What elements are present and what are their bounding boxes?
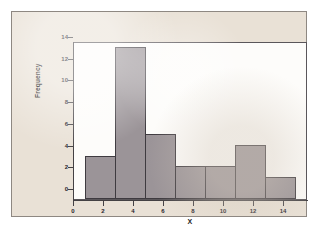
y-axis-tick [68, 124, 73, 125]
x-axis-tick-label: 14 [273, 208, 293, 214]
y-axis-tick [68, 59, 73, 60]
histogram-bar [175, 166, 206, 199]
x-axis-tick-label: 8 [183, 208, 203, 214]
y-axis-tick [68, 167, 73, 168]
x-axis-title: X [73, 218, 307, 225]
x-axis-tick-label: 6 [153, 208, 173, 214]
x-axis-tick [193, 201, 194, 206]
y-axis-title: Frequency [34, 63, 41, 98]
histogram-bar [115, 47, 146, 199]
x-axis-tick-label: 10 [213, 208, 233, 214]
y-axis-tick-label: 8 [28, 99, 68, 105]
x-axis-tick-label: 2 [93, 208, 113, 214]
x-axis-tick [103, 201, 104, 206]
y-axis-tick-label: 2 [28, 164, 68, 170]
plot-frame [73, 42, 307, 200]
x-axis-line [73, 200, 308, 201]
histogram-bar [235, 145, 266, 199]
y-axis-tick-labels: 02468101214 [20, 12, 68, 230]
histogram-bar [205, 166, 236, 199]
y-axis-tick [68, 37, 73, 38]
y-axis-tick [68, 189, 73, 190]
y-axis-tick-label: 12 [28, 56, 68, 62]
y-axis-tick-label: 6 [28, 121, 68, 127]
x-axis-tick-label: 4 [123, 208, 143, 214]
x-axis-tick [163, 201, 164, 206]
y-axis-tick [68, 102, 73, 103]
histogram-bar [85, 156, 116, 199]
x-axis-tick [73, 201, 74, 206]
y-axis-tick [68, 80, 73, 81]
histogram-bar [145, 134, 176, 199]
x-axis-tick-label: 0 [63, 208, 83, 214]
x-axis-tick [253, 201, 254, 206]
y-axis-tick-label: 0 [28, 186, 68, 192]
plot-area [74, 43, 306, 199]
x-axis-tick-label: 12 [243, 208, 263, 214]
histogram-bar [265, 177, 296, 199]
figure-panel: 02468101214 02468101214 Frequency X [11, 11, 307, 217]
x-axis-tick [223, 201, 224, 206]
y-axis-tick-label: 14 [28, 34, 68, 40]
y-axis-tick-label: 4 [28, 143, 68, 149]
y-axis-line [73, 42, 74, 201]
x-axis-tick [283, 201, 284, 206]
x-axis-tick [133, 201, 134, 206]
y-axis-tick [68, 146, 73, 147]
